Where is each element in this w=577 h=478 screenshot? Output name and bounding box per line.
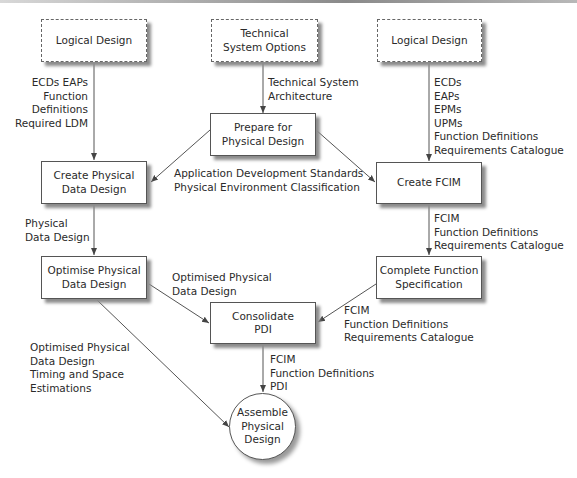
flow-label-opdd-to-consolidate: Optimised Physical Data Design [172,271,272,298]
node-logical-design-right: Logical Design [377,19,482,62]
node-consolidate-pdi: Consolidate PDI [210,302,316,344]
node-create-fcim: Create FCIM [376,162,482,204]
node-assemble-physical-design: Assemble Physical Design [229,393,296,460]
node-prepare-physical-design: Prepare for Physical Design [210,113,316,156]
node-label: Optimise Physical Data Design [47,264,140,291]
node-label: Technical System Options [223,27,306,54]
node-create-physical-data-design: Create Physical Data Design [41,161,147,204]
flow-label-cpdd-to-opdd: Physical Data Design [25,217,90,244]
flow-label-cfs-to-consolidate: FCIM Function Definitions Requirements C… [344,304,474,345]
node-label: Complete Function Specification [380,264,479,291]
flow-label-tso-to-prepare: Technical System Architecture [268,76,359,103]
node-label: Create Physical Data Design [54,169,135,196]
node-technical-system-options: Technical System Options [211,19,318,62]
flow-label-fcim-to-cfs: FCIM Function Definitions Requirements C… [434,212,564,253]
flow-label-consolidate-to-assemble: FCIM Function Definitions PDI [270,353,374,394]
node-label: Create FCIM [397,176,461,190]
flow-label-logical-to-fcim: ECDs EAPs EPMs UPMs Function Definitions… [434,76,564,157]
node-complete-function-specification: Complete Function Specification [376,256,482,299]
node-logical-design-left: Logical Design [41,19,147,62]
node-optimise-physical-data-design: Optimise Physical Data Design [41,256,147,299]
flow-label-logical-to-cpdd: ECDs EAPs Function Definitions Required … [8,76,88,130]
node-label: Logical Design [391,34,467,48]
node-label: Assemble Physical Design [237,406,288,447]
node-label: Consolidate PDI [232,310,294,337]
node-label: Prepare for Physical Design [222,121,304,148]
flow-label-prepare-outputs: Application Development Standards Physic… [174,167,363,194]
flow-label-opdd-to-assemble: Optimised Physical Data Design Timing an… [30,341,130,395]
node-label: Logical Design [56,34,132,48]
